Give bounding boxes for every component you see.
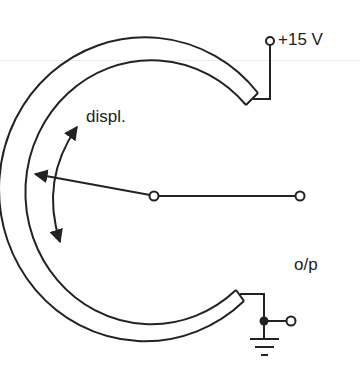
displacement-arrow-icon xyxy=(53,127,77,242)
output-terminal xyxy=(296,192,305,201)
ground-terminal xyxy=(287,317,296,326)
pivot-terminal xyxy=(150,192,159,201)
supply-terminal xyxy=(266,37,274,45)
displacement-label: displ. xyxy=(86,108,126,125)
ground-symbol-icon xyxy=(250,339,279,355)
supply-voltage-label: +15 V xyxy=(278,31,323,48)
ground-node xyxy=(260,317,269,326)
output-label: o/p xyxy=(294,256,318,273)
potentiometer-diagram xyxy=(0,0,360,374)
resistive-track xyxy=(0,37,258,341)
ground-lead xyxy=(240,294,286,339)
